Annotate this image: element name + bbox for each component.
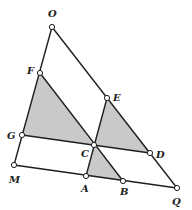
geometry-figure: OFGMEDQCAB bbox=[0, 0, 192, 210]
point-q bbox=[174, 185, 179, 190]
label-d: D bbox=[155, 149, 165, 160]
label-m: M bbox=[8, 174, 21, 185]
point-a bbox=[83, 173, 88, 178]
point-d bbox=[147, 150, 152, 155]
label-g: G bbox=[7, 130, 16, 141]
point-f bbox=[37, 70, 42, 75]
shaded-triangles bbox=[22, 73, 150, 181]
label-o: O bbox=[48, 8, 57, 19]
shaded-triangle-ecd bbox=[94, 98, 150, 153]
segment-oq bbox=[52, 27, 177, 188]
label-q: Q bbox=[172, 196, 181, 207]
label-a: A bbox=[80, 183, 89, 194]
label-e: E bbox=[112, 92, 121, 103]
label-b: B bbox=[119, 186, 128, 197]
point-e bbox=[104, 95, 109, 100]
point-o bbox=[49, 24, 54, 29]
point-c bbox=[91, 142, 96, 147]
point-m bbox=[11, 162, 16, 167]
shaded-triangle-fgc bbox=[22, 73, 94, 145]
point-g bbox=[19, 132, 24, 137]
point-b bbox=[120, 178, 125, 183]
label-c: C bbox=[81, 148, 89, 159]
label-f: F bbox=[26, 65, 35, 76]
